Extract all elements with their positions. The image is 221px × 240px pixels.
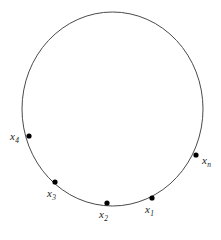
point-marker-xn: [193, 152, 198, 157]
point-subscript-x1: 1: [150, 209, 154, 218]
point-label-x3: x3: [47, 188, 56, 199]
point-marker-x2: [104, 200, 109, 205]
point-marker-x3: [52, 179, 57, 184]
point-subscript-x3: 3: [52, 193, 56, 202]
figure-canvas: x4 x3 x2 x1 xn: [0, 0, 221, 240]
point-label-xn: xn: [202, 155, 211, 166]
point-subscript-x4: 4: [15, 136, 19, 145]
point-label-x4: x4: [10, 131, 19, 142]
point-marker-x1: [149, 195, 154, 200]
point-subscript-x2: 2: [104, 214, 108, 223]
circle-outline: [22, 12, 203, 206]
circle-diagram-svg: [0, 0, 221, 240]
point-label-x2: x2: [99, 209, 108, 220]
point-label-x1: x1: [145, 204, 154, 215]
point-subscript-xn: n: [207, 160, 211, 169]
point-marker-x4: [26, 133, 31, 138]
